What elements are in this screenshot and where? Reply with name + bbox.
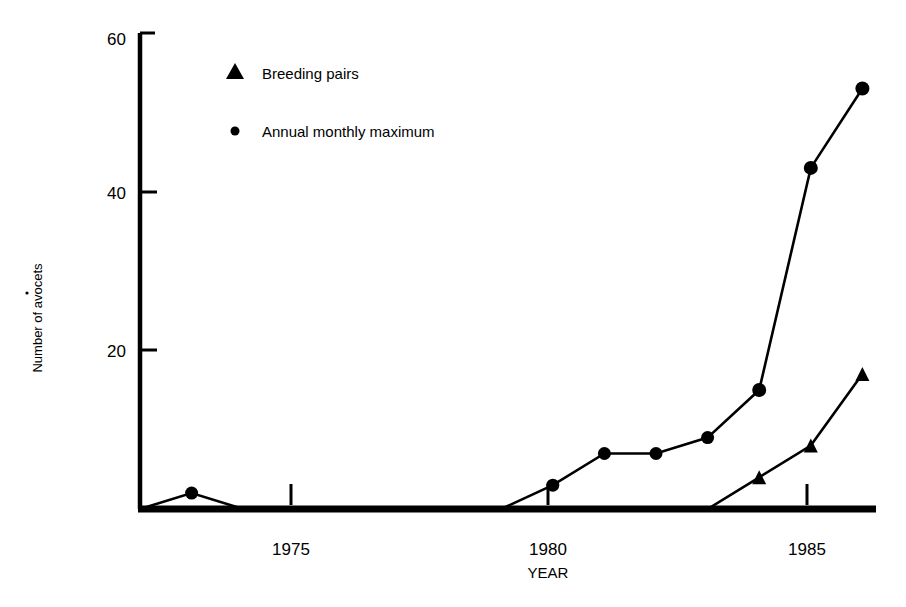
breeding-point-1984: [752, 470, 766, 484]
data-point-1986: [855, 82, 869, 96]
x-tick-label-1985: 1985: [788, 540, 826, 559]
breeding-pairs-line: [708, 374, 863, 509]
legend-label-annual-monthly-maximum: Annual monthly maximum: [262, 123, 435, 140]
triangle-marker-icon: [226, 63, 244, 79]
y-tick-label-60: 60: [107, 30, 126, 49]
legend-item-annual-monthly-maximum: Annual monthly maximum: [231, 123, 435, 140]
series-breeding-pairs: [708, 367, 870, 509]
circle-marker-icon: [231, 127, 240, 136]
data-point-1983: [701, 431, 714, 444]
series-annual-monthly-maximum: [140, 82, 869, 510]
data-point-1980: [546, 479, 559, 492]
print-speck: [25, 291, 28, 294]
breeding-point-1986: [855, 367, 869, 381]
legend-label-breeding-pairs: Breeding pairs: [262, 65, 359, 82]
legend-item-breeding-pairs: Breeding pairs: [226, 63, 359, 82]
y-tick-label-40: 40: [107, 184, 126, 203]
annual-max-line: [140, 89, 862, 510]
data-point-1982: [650, 447, 663, 460]
chart-canvas: 60 40 20 1975 1980 1985 YEAR Number of a…: [0, 0, 906, 607]
y-axis-title: Number of avocets: [30, 263, 45, 373]
data-point-1985: [804, 161, 818, 175]
axis-group: [138, 33, 876, 509]
chart-legend: Breeding pairs Annual monthly maximum: [226, 63, 435, 140]
x-axis-title: YEAR: [528, 564, 569, 581]
data-point-1984: [752, 383, 766, 397]
x-tick-label-1980: 1980: [529, 540, 567, 559]
y-tick-label-20: 20: [107, 342, 126, 361]
x-tick-label-1975: 1975: [272, 540, 310, 559]
data-point-1973: [185, 487, 198, 500]
data-point-1981: [598, 447, 611, 460]
avocet-population-chart: 60 40 20 1975 1980 1985 YEAR Number of a…: [0, 0, 906, 607]
